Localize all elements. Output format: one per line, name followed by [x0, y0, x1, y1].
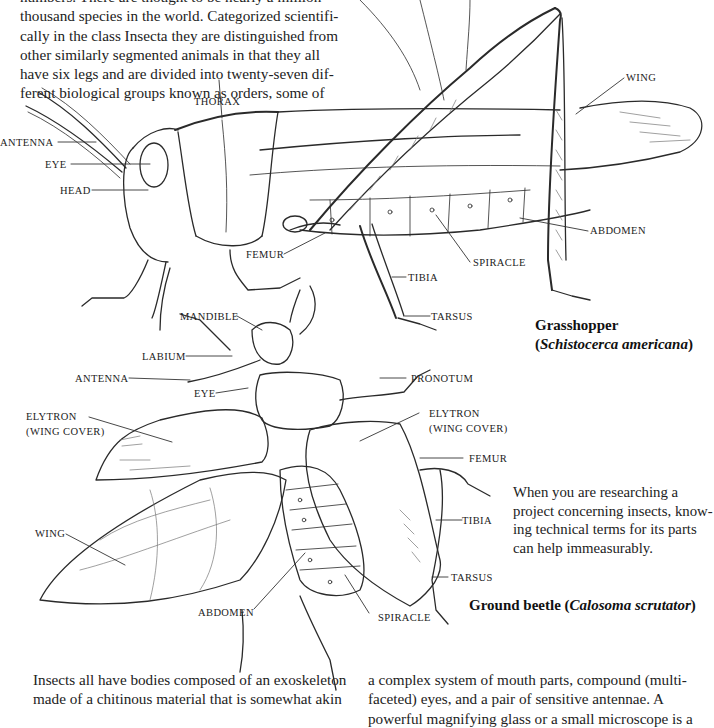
label-beetle-antenna: ANTENNA: [75, 373, 129, 385]
label-tarsus: TARSUS: [431, 311, 473, 323]
label-elytron-left: ELYTRON: [26, 411, 77, 423]
bottom-right-line: powerful magnifying glass or a small mic…: [368, 709, 693, 728]
label-beetle-femur: FEMUR: [469, 453, 507, 465]
label-beetle-tibia: TIBIA: [462, 515, 492, 527]
label-abdomen: ABDOMEN: [590, 225, 646, 237]
label-elytron-right: ELYTRON: [429, 408, 480, 420]
label-elytron-left-sub: (WING COVER): [26, 426, 105, 438]
bottom-left-paragraph: Insects all have bodies composed of an e…: [33, 670, 346, 709]
label-femur: FEMUR: [246, 249, 284, 261]
label-labium: LABIUM: [142, 351, 186, 363]
intro-line: other similarly segmented animals in tha…: [20, 45, 338, 64]
beetle-scientific-name: Calosoma scrutator: [570, 597, 691, 613]
bottom-right-paragraph: a complex system of mouth parts, compoun…: [368, 670, 693, 728]
label-spiracle: SPIRACLE: [473, 257, 526, 269]
intro-paragraph: numbers. There are thought to be nearly …: [20, 0, 338, 103]
side-note-line: When you are researching a: [513, 483, 713, 502]
label-tibia: TIBIA: [408, 272, 438, 284]
label-eye: EYE: [45, 159, 67, 171]
grasshopper-leader-lines: [58, 78, 624, 316]
beetle-caption: Ground beetle (Calosoma scrutator): [469, 596, 696, 615]
bottom-left-line: Insects all have bodies composed of an e…: [33, 670, 346, 689]
label-beetle-wing: WING: [35, 528, 65, 540]
label-beetle-abdomen: ABDOMEN: [198, 607, 254, 619]
bottom-right-line: a complex system of mouth parts, compoun…: [368, 670, 693, 689]
grasshopper-common-name: Grasshopper: [535, 317, 618, 333]
label-elytron-right-sub: (WING COVER): [429, 423, 508, 435]
label-pronotum: PRONOTUM: [411, 373, 473, 385]
label-wing: WING: [626, 72, 656, 84]
intro-line: have six legs and are divided into twent…: [20, 64, 338, 83]
label-thorax: THORAX: [194, 96, 240, 108]
bottom-right-line: faceted) eyes, and a pair of sensitive a…: [368, 689, 693, 708]
intro-line: cally in the class Insecta they are dist…: [20, 26, 338, 45]
intro-line: ferent biological groups known as orders…: [20, 83, 338, 102]
label-head: HEAD: [60, 185, 91, 197]
side-note-line: ing technical terms for its parts: [513, 520, 713, 539]
side-note: When you are researching a project conce…: [513, 483, 713, 557]
label-antenna: ANTENNA: [0, 137, 54, 149]
label-beetle-tarsus: TARSUS: [451, 572, 493, 584]
label-mandible: MANDIBLE: [180, 311, 239, 323]
intro-line: thousand species in the world. Categoriz…: [20, 6, 338, 25]
bottom-left-line: made of a chitinous material that is som…: [33, 689, 346, 708]
beetle-drawing: [40, 286, 490, 690]
side-note-line: project concerning insects, know-: [513, 502, 713, 521]
beetle-common-name: Ground beetle: [469, 597, 561, 613]
grasshopper-scientific-name: Schistocerca americana: [540, 336, 688, 352]
label-beetle-spiracle: SPIRACLE: [378, 612, 431, 624]
grasshopper-caption: Grasshopper (Schistocerca americana): [535, 316, 693, 354]
label-beetle-eye: EYE: [194, 388, 216, 400]
side-note-line: can help immeasurably.: [513, 539, 713, 558]
